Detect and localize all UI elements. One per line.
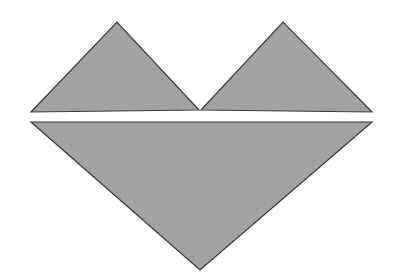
figure-canvas bbox=[0, 0, 394, 280]
figure-svg bbox=[0, 0, 394, 280]
